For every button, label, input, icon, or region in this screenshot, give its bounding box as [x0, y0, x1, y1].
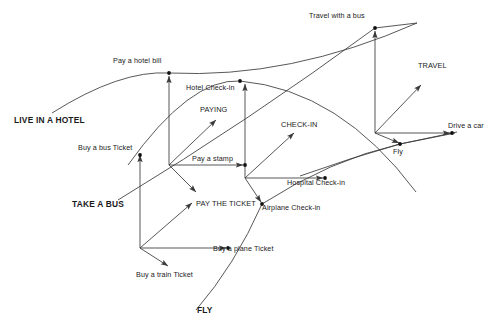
node-label-pay-a-stamp: Pay a stamp [192, 155, 233, 162]
hub-arrow [245, 133, 294, 178]
node-label-fly: Fly [393, 148, 403, 155]
hub-arrow [140, 248, 168, 266]
node-label-paying: PAYING [200, 106, 227, 113]
hub-arrow [375, 133, 399, 143]
node-label-travel-with-a-bus: Travel with a bus [309, 12, 365, 19]
diagram-svg [0, 0, 500, 335]
hub-arrow [169, 165, 196, 192]
node-label-buy-a-train-ticket: Buy a train Ticket [136, 271, 193, 278]
hub-arrow [140, 203, 192, 248]
node-dot [138, 153, 142, 157]
node-label-airplane-check-in: Airplane Check-in [262, 204, 320, 211]
analogy-arc [196, 133, 455, 310]
analogy-arc [300, 132, 457, 176]
analogy-arc [52, 23, 417, 113]
node-dots-group [138, 26, 454, 250]
node-label-hotel-check-in: Hotel Check-in [186, 84, 235, 91]
node-label-travel: TRAVEL [418, 62, 447, 69]
analogy-arc [128, 81, 416, 192]
node-label-check-in: CHECK-IN [281, 121, 318, 128]
node-label-pay-a-hotel-bill: Pay a hotel bill [113, 57, 161, 64]
analogy-arc [118, 23, 417, 200]
node-label-buy-a-plane-ticket: Buy a plane Ticket [213, 245, 274, 252]
node-label-pay-the-ticket: PAY THE TICKET [196, 200, 256, 207]
node-dot [450, 131, 454, 135]
diagram-canvas: Pay a hotel bill Hotel Check-in PAYING P… [0, 0, 500, 335]
analogy-arcs-group [52, 23, 457, 310]
domain-label-live-in-a-hotel: LIVE IN A HOTEL [14, 116, 85, 124]
hub-arrows-group [140, 31, 450, 266]
node-label-buy-a-bus-ticket: Buy a bus Ticket [78, 144, 132, 151]
node-dot [238, 79, 242, 83]
domain-label-fly: FLY [197, 306, 213, 314]
node-label-hospital-check-in: Hospital Check-in [287, 179, 345, 186]
node-dot [167, 71, 171, 75]
node-dot [398, 142, 402, 146]
node-dot [243, 163, 247, 167]
node-label-drive-a-car: Drive a car [448, 122, 484, 129]
node-dot [373, 26, 377, 30]
hub-arrow [375, 85, 421, 133]
domain-label-take-a-bus: TAKE A BUS [72, 200, 124, 208]
